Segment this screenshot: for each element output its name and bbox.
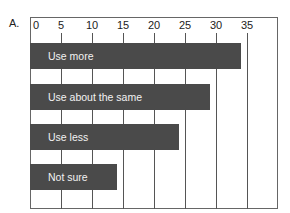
bar: Use more: [30, 43, 241, 69]
bar: Use about the same: [30, 84, 210, 110]
x-tick-label: 30: [210, 19, 222, 31]
bar-label: Use more: [48, 50, 94, 62]
x-tick-label: 15: [117, 19, 129, 31]
bar-label: Use less: [48, 131, 88, 143]
bar-label: Not sure: [48, 171, 88, 183]
x-tick-label: 5: [58, 19, 64, 31]
panel-label: A.: [9, 17, 19, 29]
gridline: [247, 33, 248, 209]
x-tick-label: 35: [241, 19, 253, 31]
x-tick-label: 25: [179, 19, 191, 31]
x-tick-label: 10: [86, 19, 98, 31]
bar-label: Use about the same: [48, 91, 142, 103]
bar: Use less: [30, 124, 179, 150]
x-tick-label: 20: [148, 19, 160, 31]
bar: Not sure: [30, 164, 117, 190]
x-tick-label: 0: [33, 19, 39, 31]
